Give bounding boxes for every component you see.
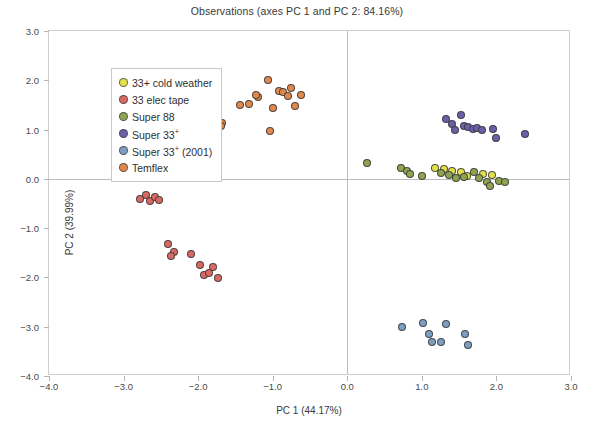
- data-point: [236, 101, 244, 109]
- data-point: [464, 341, 472, 349]
- x-axis-title: PC 1 (44.17%): [48, 405, 570, 416]
- x-tick-label: 2.0: [490, 381, 503, 392]
- legend-swatch-icon: [119, 129, 128, 138]
- data-point: [269, 104, 277, 112]
- data-point: [486, 182, 494, 190]
- y-tick-label: −4.0: [5, 371, 39, 382]
- data-point: [287, 84, 295, 92]
- legend-item-label: Temflex: [132, 162, 168, 174]
- data-point: [475, 174, 483, 182]
- y-tick-mark: [44, 376, 49, 377]
- y-tick-mark: [44, 179, 49, 180]
- data-point: [451, 126, 459, 134]
- data-point: [245, 100, 253, 108]
- data-point: [501, 178, 509, 186]
- legend-item-0[interactable]: 33+ cold weather: [119, 74, 212, 91]
- plot-area: −4.0−3.0−2.0−1.00.01.02.03.0 3.02.01.00.…: [48, 30, 570, 375]
- data-point: [418, 172, 426, 180]
- data-point: [492, 134, 500, 142]
- data-point: [460, 173, 468, 181]
- vertical-zero-line: [347, 31, 348, 374]
- y-tick-label: −3.0: [5, 321, 39, 332]
- legend-item-label: 33+ cold weather: [132, 77, 212, 89]
- x-tick-label: 1.0: [415, 381, 428, 392]
- data-point: [164, 240, 172, 248]
- legend-item-4[interactable]: Super 33+ (2001): [119, 142, 212, 159]
- data-point: [521, 130, 529, 138]
- legend-item-3[interactable]: Super 33+: [119, 125, 212, 142]
- data-point: [406, 170, 414, 178]
- data-point: [291, 102, 299, 110]
- data-point: [489, 125, 497, 133]
- legend-item-1[interactable]: 33 elec tape: [119, 91, 212, 108]
- legend-item-label: Super 88: [132, 111, 175, 123]
- data-point: [363, 159, 371, 167]
- data-point: [196, 261, 204, 269]
- x-tick-label: −4.0: [40, 381, 59, 392]
- data-point: [419, 319, 427, 327]
- y-tick-label: 2.0: [5, 75, 39, 86]
- data-point: [205, 269, 213, 277]
- legend-swatch-icon: [119, 95, 128, 104]
- x-tick-label: 3.0: [564, 381, 577, 392]
- legend-item-5[interactable]: Temflex: [119, 159, 212, 176]
- data-point: [284, 92, 292, 100]
- data-point: [252, 91, 260, 99]
- y-tick-mark: [44, 277, 49, 278]
- data-point: [425, 330, 433, 338]
- y-tick-label: −1.0: [5, 223, 39, 234]
- legend-swatch-icon: [119, 146, 128, 155]
- y-tick-mark: [44, 327, 49, 328]
- pca-observations-figure: Observations (axes PC 1 and PC 2: 84.16%…: [0, 0, 594, 432]
- y-tick-mark: [44, 31, 49, 32]
- legend-swatch-icon: [119, 163, 128, 172]
- legend-swatch-icon: [119, 78, 128, 87]
- data-point: [297, 91, 305, 99]
- data-point: [266, 127, 274, 135]
- data-point: [428, 338, 436, 346]
- data-point: [209, 263, 217, 271]
- data-point: [398, 323, 406, 331]
- y-tick-label: 1.0: [5, 124, 39, 135]
- x-tick-label: −1.0: [263, 381, 282, 392]
- legend-swatch-icon: [119, 112, 128, 121]
- data-point: [442, 320, 450, 328]
- y-tick-mark: [44, 80, 49, 81]
- legend-item-label: Super 33+: [132, 127, 179, 141]
- legend-item-2[interactable]: Super 88: [119, 108, 212, 125]
- x-tick-label: −2.0: [189, 381, 208, 392]
- data-point: [478, 126, 486, 134]
- data-point: [264, 76, 272, 84]
- data-point: [457, 111, 465, 119]
- data-point: [155, 196, 163, 204]
- legend-item-label: 33 elec tape: [132, 94, 189, 106]
- y-axis-title: PC 2 (39.99%): [64, 133, 75, 313]
- y-tick-label: 0.0: [5, 173, 39, 184]
- data-point: [461, 330, 469, 338]
- data-point: [187, 250, 195, 258]
- data-point: [167, 252, 175, 260]
- x-tick-label: 0.0: [341, 381, 354, 392]
- x-tick-label: −3.0: [114, 381, 133, 392]
- y-tick-mark: [44, 130, 49, 131]
- legend: 33+ cold weather33 elec tapeSuper 88Supe…: [111, 68, 222, 182]
- y-tick-mark: [44, 228, 49, 229]
- data-point: [214, 274, 222, 282]
- data-point: [437, 338, 445, 346]
- y-tick-label: −2.0: [5, 272, 39, 283]
- legend-item-label: Super 33+ (2001): [132, 144, 212, 158]
- y-tick-label: 3.0: [5, 26, 39, 37]
- chart-title: Observations (axes PC 1 and PC 2: 84.16%…: [0, 5, 594, 17]
